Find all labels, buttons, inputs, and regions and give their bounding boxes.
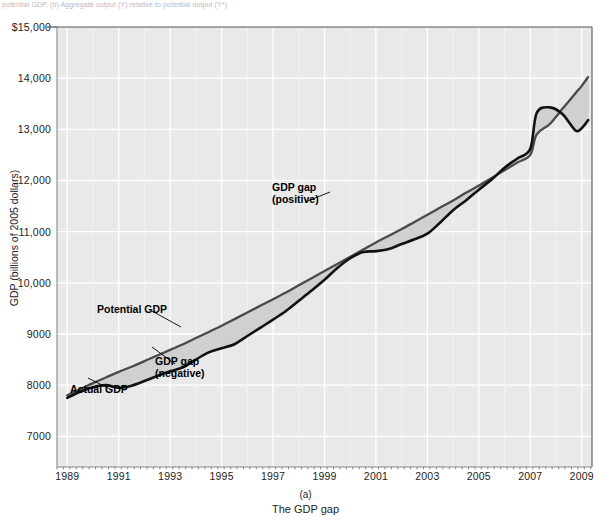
annotation-gap-negative: GDP gap (negative) xyxy=(155,355,205,379)
annotation-gap-positive-line2: (positive) xyxy=(272,193,319,205)
x-axis-labels: 1989199119931995199719992001200320052007… xyxy=(0,470,611,488)
annotation-actual-gdp: Actual GDP xyxy=(70,383,128,395)
x-axis-tick-label: 2005 xyxy=(467,470,491,482)
x-axis-tick-label: 1993 xyxy=(158,470,182,482)
x-axis-tick-label: 2003 xyxy=(415,470,439,482)
annotation-potential-gdp: Potential GDP xyxy=(97,303,167,315)
annotation-gap-negative-line2: (negative) xyxy=(155,367,205,379)
figure-caption: The GDP gap xyxy=(0,503,611,515)
x-axis-tick-label: 1995 xyxy=(210,470,234,482)
panel-letter: (a) xyxy=(0,489,611,500)
x-axis-tick-label: 1989 xyxy=(55,470,79,482)
x-axis-tick-label: 1997 xyxy=(261,470,285,482)
x-axis-tick-label: 1991 xyxy=(107,470,131,482)
annotation-gap-positive: GDP gap (positive) xyxy=(272,181,319,205)
x-axis-tick-label: 2007 xyxy=(518,470,542,482)
x-axis-tick-label: 1999 xyxy=(312,470,336,482)
chart-plot-area xyxy=(0,0,611,523)
x-axis-tick-label: 2009 xyxy=(570,470,594,482)
x-axis-tick-label: 2001 xyxy=(364,470,388,482)
annotation-gap-positive-line1: GDP gap xyxy=(272,181,316,193)
gdp-gap-figure: potential GDP. (b) Aggregate output (Y) … xyxy=(0,0,611,523)
annotation-gap-negative-line1: GDP gap xyxy=(155,355,199,367)
